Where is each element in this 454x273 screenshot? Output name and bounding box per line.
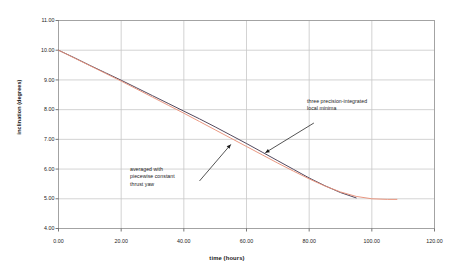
series-line-averaged [59,50,397,199]
y-tick-label: 6.00 [21,166,55,172]
annotation-arrow-minima [265,123,314,153]
y-tick-label: 9.00 [21,77,55,83]
x-tick-label: 20.00 [101,238,141,244]
data-series-layer [59,50,397,199]
annotation-line: piecewise constant [130,173,175,180]
y-tick-label: 4.00 [21,225,55,231]
x-tick-label: 100.00 [352,238,392,244]
annotation-line: three precision-integrated [307,98,367,105]
x-tick-label: 40.00 [164,238,204,244]
x-tick-label: 80.00 [289,238,329,244]
y-tick-label: 5.00 [21,195,55,201]
y-tick-label: 8.00 [21,106,55,112]
y-tick-label: 7.00 [21,136,55,142]
x-tick-label: 60.00 [227,238,267,244]
vertical-gridlines [121,21,372,229]
y-tick-label: 11.00 [21,17,55,23]
annotation-arrow-averaged [200,144,231,181]
x-tick-label: 0.00 [39,238,79,244]
annotation-averaged-thrust-yaw: averaged with piecewise constant thrust … [130,166,175,188]
axis-tick-marks [56,21,435,232]
annotation-line: local minima [307,105,367,112]
annotation-line: averaged with [130,166,175,173]
chart-figure: inclination (degrees) time (hours) 4.005… [0,0,454,273]
y-tick-label: 10.00 [21,47,55,53]
x-axis-title: time (hours) [0,255,454,261]
annotation-line: thrust yaw [130,181,175,188]
x-tick-label: 120.00 [415,238,454,244]
plot-canvas [0,0,454,273]
annotation-precision-integrated-minima: three precision-integrated local minima [307,98,367,113]
